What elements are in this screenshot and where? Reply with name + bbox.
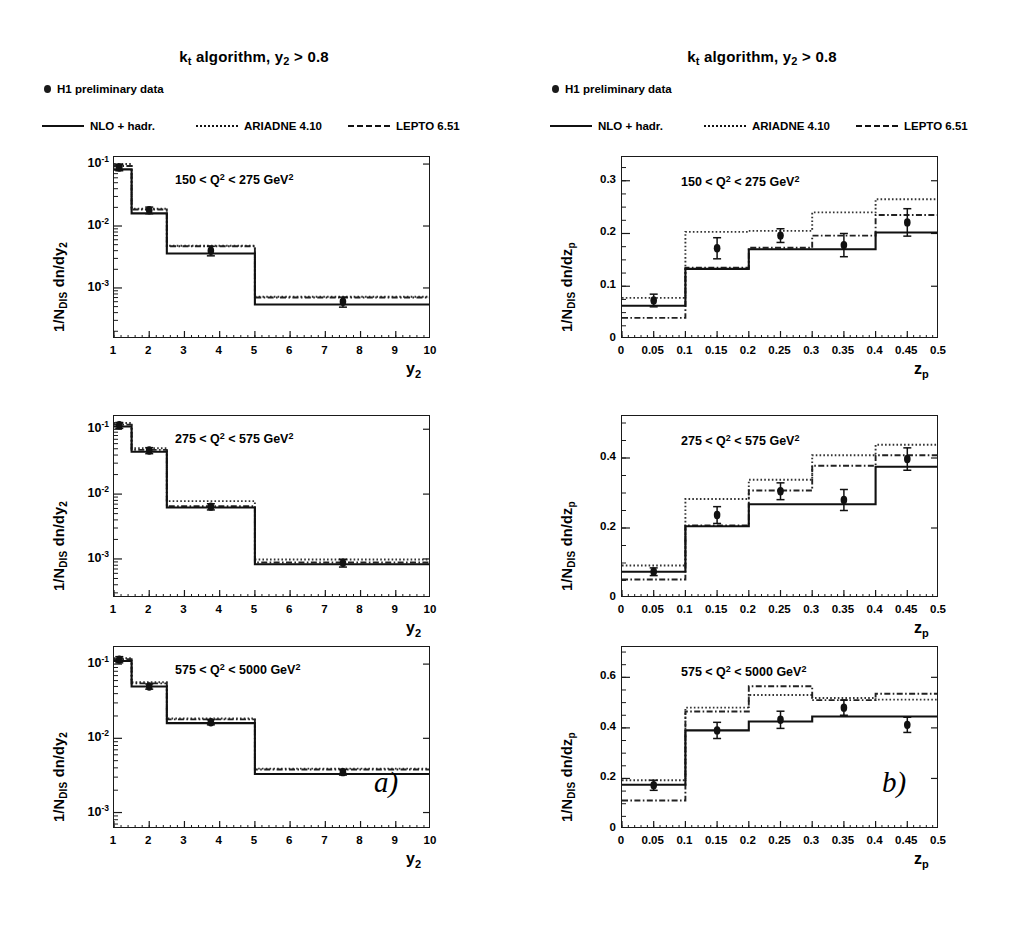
x-axis-label: zp	[914, 850, 929, 870]
panel-letter-b: b)	[882, 766, 906, 799]
data-point-marker	[714, 726, 721, 734]
y-tick-label: 0.6	[583, 669, 616, 681]
x-tick-label: 0.3	[794, 834, 828, 846]
data-point-group	[903, 717, 911, 732]
data-point-marker	[841, 703, 848, 711]
x-tick-label: 0.4	[858, 834, 892, 846]
data-point-group	[713, 722, 721, 738]
x-tick-label: 0.5	[921, 834, 955, 846]
panel-b-bottom: 00.20.40.600.050.10.150.20.250.30.350.40…	[0, 0, 1016, 935]
data-point-marker	[650, 781, 657, 789]
data-point-group	[650, 780, 658, 790]
y-axis-label: 1/NDIS dn/dzp	[559, 732, 577, 822]
x-tick-label: 0.1	[667, 834, 701, 846]
x-tick-label: 0.15	[699, 834, 733, 846]
q2-range-label: 575 < Q2 < 5000 GeV2	[681, 664, 806, 679]
data-point-group	[777, 711, 785, 728]
figure-root: kt algorithm, y2 > 0.8H1 preliminary dat…	[0, 0, 1016, 935]
x-tick-label: 0.25	[763, 834, 797, 846]
x-tick-label: 0.45	[889, 834, 923, 846]
data-point-group	[840, 700, 848, 715]
x-tick-label: 0.2	[731, 834, 765, 846]
data-point-marker	[904, 721, 911, 729]
data-point-marker	[777, 716, 784, 724]
y-tick-label: 0	[583, 821, 616, 833]
y-tick-label: 0.4	[583, 720, 616, 732]
x-tick-label: 0.35	[826, 834, 860, 846]
y-tick-label: 0.2	[583, 770, 616, 782]
x-tick-label: 0.05	[636, 834, 670, 846]
x-tick-label: 0	[604, 834, 638, 846]
